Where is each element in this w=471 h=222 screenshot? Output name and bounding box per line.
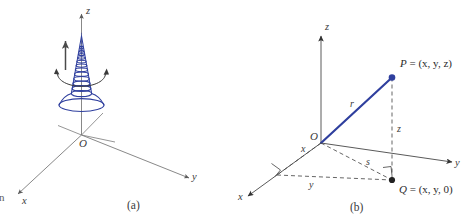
panel-a-x-negative-stub bbox=[82, 113, 104, 135]
panel-b-right-angle-1 bbox=[272, 164, 281, 177]
panel-b-point-Q-label: Q = (x, y, 0) bbox=[399, 184, 453, 195]
panel-b-right-angle-2 bbox=[383, 167, 392, 176]
panel-b-caption: (b) bbox=[350, 202, 363, 214]
panel-b-y-axis-label: y bbox=[455, 158, 460, 169]
panel-b-point-Q-label-lead: Q bbox=[399, 183, 407, 195]
panel-b-point-Q-label-rest: = (x, y, 0) bbox=[407, 183, 453, 195]
panel-a-y-axis-label: y bbox=[192, 172, 197, 183]
panel-b-label-r: r bbox=[350, 99, 354, 109]
panel-b-point-P-label-lead: P bbox=[400, 57, 407, 69]
panel-b-origin-label: O bbox=[310, 131, 318, 142]
panel-b-point-P-label: P = (x, y, z) bbox=[400, 58, 452, 69]
panel-a-rotation-arrowhead-left bbox=[54, 69, 59, 75]
panel-a-rotation-arrowhead-right bbox=[104, 69, 109, 75]
panel-b-segment-r bbox=[321, 78, 392, 144]
panel-b-segment-y-projection bbox=[277, 175, 392, 180]
panel-a bbox=[18, 14, 189, 194]
panel-a-y-axis bbox=[82, 135, 190, 178]
panel-a-x-axis bbox=[18, 135, 82, 194]
panel-b-point-P bbox=[389, 74, 396, 81]
panel-b-label-x: x bbox=[301, 144, 305, 154]
panel-b-label-s: s bbox=[366, 157, 370, 167]
panel-a-y-negative-stub bbox=[58, 126, 82, 136]
panel-b-label-y: y bbox=[309, 180, 313, 190]
panel-a-caption: (a) bbox=[127, 200, 140, 212]
page-edge-text-fragment: n bbox=[0, 192, 5, 203]
panel-b-x-axis-label: x bbox=[238, 192, 243, 203]
panel-b-point-Q bbox=[389, 177, 395, 183]
panel-b-y-axis bbox=[321, 143, 452, 162]
panel-a-z-axis-label: z bbox=[86, 6, 90, 17]
panel-a-x-axis-label: x bbox=[22, 196, 27, 207]
panel-b-label-z: z bbox=[397, 124, 401, 134]
panel-a-origin-label: O bbox=[79, 138, 87, 149]
panel-b-z-axis-label: z bbox=[325, 22, 329, 33]
panel-b-point-P-label-rest: = (x, y, z) bbox=[407, 57, 452, 69]
